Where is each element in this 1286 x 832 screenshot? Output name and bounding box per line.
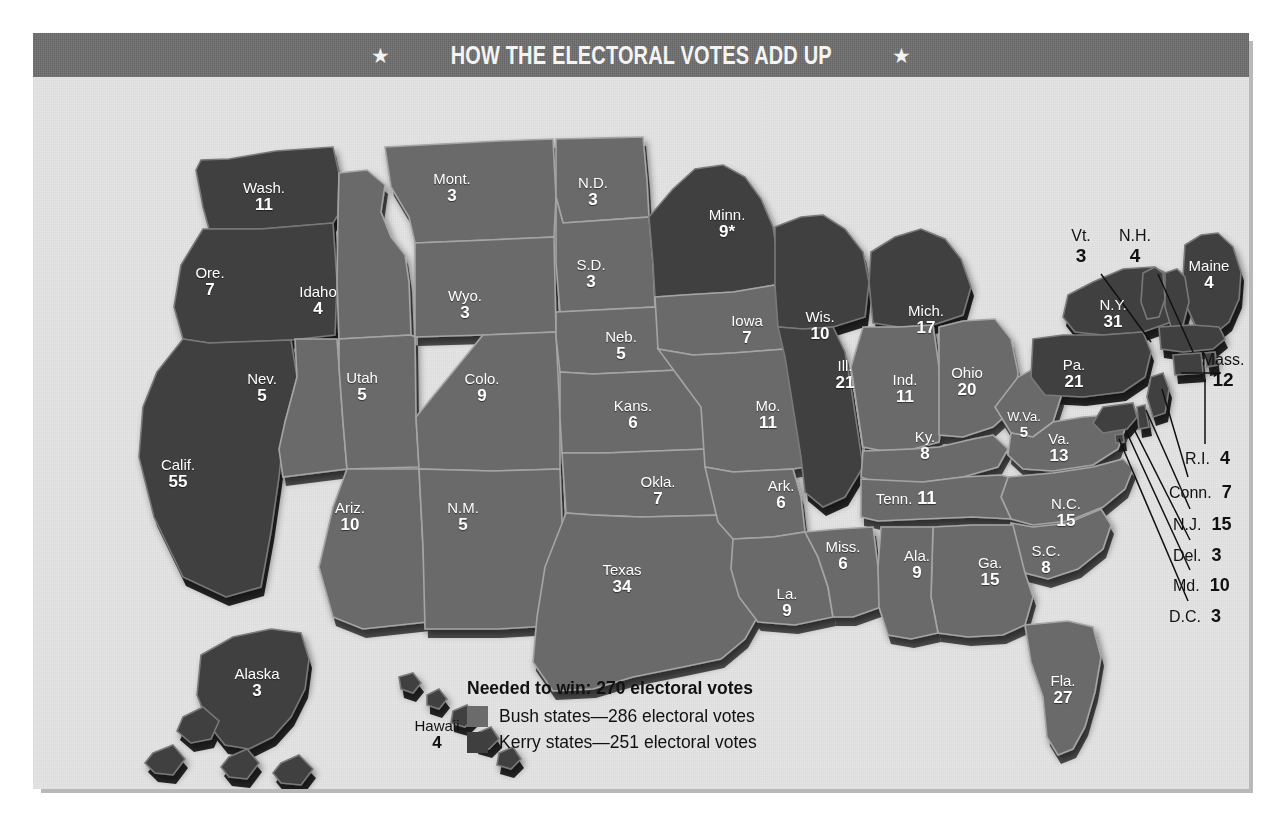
state-wis — [775, 215, 869, 329]
state-tenn — [861, 475, 1011, 521]
callout-votes: 4 — [1220, 448, 1230, 468]
state-ga — [931, 525, 1033, 637]
state-mont — [385, 139, 556, 243]
state-iowa — [655, 285, 785, 355]
legend-item-bush: Bush states—286 electoral votes — [467, 706, 757, 727]
callout-name: Md. — [1173, 577, 1200, 594]
callout-mass: Mass.12 — [1183, 351, 1249, 391]
page-title: HOW THE ELECTORAL VOTES ADD UP — [450, 41, 831, 70]
state-minn — [649, 165, 778, 297]
callout-votes: 3 — [1211, 545, 1221, 565]
callout-nh: N.H.4 — [1095, 227, 1175, 267]
callout-name: R.I. — [1185, 450, 1210, 467]
needed-to-win-text: Needed to win: 270 electoral votes — [467, 678, 757, 699]
callout-conn: Conn.7 — [1169, 482, 1232, 503]
state-texas — [533, 513, 763, 691]
legend-item-kerry: Kerry states—251 electoral votes — [467, 732, 757, 753]
state-vt — [1141, 267, 1165, 319]
callout-votes: 10 — [1210, 575, 1230, 595]
callout-votes: 7 — [1222, 482, 1232, 502]
callout-votes: 4 — [1095, 245, 1175, 267]
state-utah — [339, 335, 419, 469]
callout-name: Conn. — [1169, 484, 1212, 501]
bush-color-swatch — [467, 706, 488, 727]
state-fla — [1025, 621, 1101, 755]
callout-md: Md.10 — [1173, 575, 1230, 596]
state-calif — [139, 339, 297, 597]
callout-name: D.C. — [1169, 608, 1201, 625]
legend-label-kerry: Kerry states—251 electoral votes — [499, 732, 757, 753]
state-nd — [556, 137, 649, 223]
header-bar: ★ HOW THE ELECTORAL VOTES ADD UP ★ — [33, 33, 1249, 77]
state-ala — [878, 527, 938, 639]
state-nj — [1147, 373, 1169, 417]
state-colo — [416, 332, 560, 471]
state-mich — [869, 229, 971, 327]
callout-nj: N.J.15 — [1173, 514, 1231, 535]
callout-name: Del. — [1173, 547, 1201, 564]
state-ind — [851, 325, 943, 451]
callout-del: Del.3 — [1173, 545, 1221, 566]
kerry-color-swatch — [467, 732, 488, 753]
callout-name: N.J. — [1173, 516, 1201, 533]
state-del — [1137, 405, 1149, 429]
callout-votes: 3 — [1211, 606, 1221, 626]
callout-dc: D.C.3 — [1169, 606, 1221, 627]
state-wyo — [415, 237, 556, 337]
screenshot-root: ★ HOW THE ELECTORAL VOTES ADD UP ★ — [0, 0, 1286, 832]
map-body: Wash.11Ore.7Calif.55Idaho4Nev.5Mont.3Wyo… — [33, 77, 1249, 789]
star-right-icon: ★ — [892, 45, 911, 66]
callout-name: N.H. — [1095, 227, 1175, 245]
legend: Needed to win: 270 electoral votes Bush … — [467, 678, 757, 758]
state-wash — [196, 147, 339, 229]
callout-votes: 12 — [1183, 369, 1249, 391]
callout-ri: R.I.4 — [1185, 448, 1230, 469]
callout-votes: 15 — [1211, 514, 1231, 534]
callout-name: Mass. — [1183, 351, 1249, 369]
infographic-card: ★ HOW THE ELECTORAL VOTES ADD UP ★ — [33, 33, 1249, 789]
header-inner: ★ HOW THE ELECTORAL VOTES ADD UP ★ — [371, 41, 911, 70]
legend-label-bush: Bush states—286 electoral votes — [499, 706, 755, 727]
state-ore — [174, 223, 337, 343]
state-ariz — [319, 469, 427, 629]
star-left-icon: ★ — [371, 45, 390, 66]
